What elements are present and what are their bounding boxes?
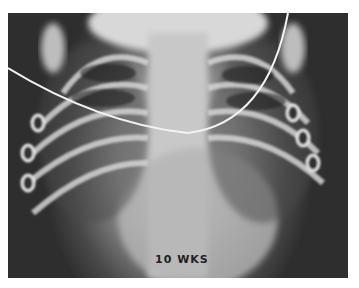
age-annotation: 10 WKS <box>155 253 209 266</box>
chest-xray-image <box>8 13 348 278</box>
xray-illustration <box>8 13 348 278</box>
